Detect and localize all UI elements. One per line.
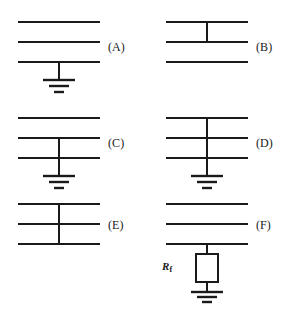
panel-label-b: (B) [256,40,272,55]
panel-label-c: (C) [108,136,124,151]
circuit-diagram-f [148,196,295,304]
panel-label-d: (D) [256,136,273,151]
panel-label-f: (F) [256,218,271,233]
resistor-body [196,254,218,282]
circuit-panel-f: Rf (F) [148,196,295,304]
figure-sheet: (A) (B) (C) [0,0,295,324]
resistor-symbol: R [162,260,169,272]
panel-label-e: (E) [108,218,124,233]
resistor-label: Rf [162,260,172,274]
circuit-panel-e: (E) [0,196,147,304]
circuit-diagram-e [0,196,147,304]
circuit-diagram-b [148,4,295,112]
circuit-diagram-a [0,4,147,112]
panel-label-a: (A) [108,40,125,55]
circuit-panel-b: (B) [148,4,295,112]
resistor-subscript: f [170,265,173,274]
circuit-panel-a: (A) [0,4,147,112]
